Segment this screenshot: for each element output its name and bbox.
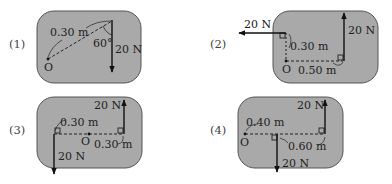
panel-4: (4) O 0.40 m 0.60 m 20 N 20 N xyxy=(210,97,343,172)
panel-4-distance-near-label: 0.40 m xyxy=(246,116,285,129)
panel-4-pivot-dot xyxy=(244,133,247,136)
panel-4-force-down-label: 20 N xyxy=(282,157,309,170)
panel-2-force-left-label: 20 N xyxy=(244,18,271,31)
panel-4-force-up-label: 20 N xyxy=(297,99,324,112)
panel-2-force-up-label: 20 N xyxy=(348,24,375,37)
panel-1-angle-label: 60° xyxy=(93,37,113,50)
panel-4-number: (4) xyxy=(210,123,226,137)
panel-1-distance-label: 0.30 m xyxy=(50,26,89,39)
panel-2-pivot-dot xyxy=(285,60,288,63)
panel-3: (3) O 0.30 m 0.30 m 20 N 20 N xyxy=(9,97,142,174)
panel-3-body xyxy=(37,97,142,168)
panel-4-distance-far-label: 0.60 m xyxy=(288,140,327,153)
panel-4-pivot-label: O xyxy=(240,136,249,149)
panel-3-distance-left-label: 0.30 m xyxy=(60,116,99,129)
panel-3-force-up-label: 20 N xyxy=(94,99,121,112)
torque-diagrams: (1) O 0.30 m 60° 20 N (2) xyxy=(0,0,392,184)
panel-1-pivot-label: O xyxy=(44,61,53,74)
panel-2-number: (2) xyxy=(210,37,226,51)
panel-3-distance-right-label: 0.30 m xyxy=(94,138,133,151)
panel-2-distance-vertical-label: 0.30 m xyxy=(290,40,329,53)
panel-1: (1) O 0.30 m 60° 20 N xyxy=(9,11,142,83)
panel-1-force-label: 20 N xyxy=(115,43,142,56)
panel-3-number: (3) xyxy=(9,123,25,137)
panel-3-pivot-label: O xyxy=(81,135,90,148)
panel-2: (2) O 0.30 m 0.50 m 20 N 20 N xyxy=(210,11,378,83)
panel-1-pivot-dot xyxy=(47,58,50,61)
panel-1-number: (1) xyxy=(9,37,25,51)
panel-2-pivot-label: O xyxy=(282,63,291,76)
panel-3-force-down-label: 20 N xyxy=(58,150,85,163)
panel-2-distance-horizontal-label: 0.50 m xyxy=(298,64,337,77)
